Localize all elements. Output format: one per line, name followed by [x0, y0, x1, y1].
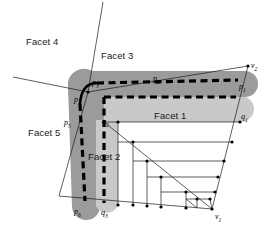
vertex-dot	[230, 140, 233, 143]
point-label-p3: p3	[92, 79, 99, 89]
point-sub: 2	[157, 79, 160, 85]
point-label-q3: q3	[101, 209, 108, 219]
vertex-dot-q3	[116, 203, 119, 206]
point-label-q2: q2	[102, 118, 109, 128]
vertex-dot	[216, 175, 219, 178]
point-sub: 1	[243, 87, 246, 93]
point-label-q1: q1	[241, 113, 248, 123]
facet-label-1: Facet 1	[154, 110, 186, 121]
point-label-v1: v1	[215, 213, 221, 223]
facet-label-5: Facet 5	[28, 127, 60, 138]
vertex-dot	[195, 197, 198, 200]
vertex-dot	[208, 197, 211, 200]
vertex-dot	[116, 120, 119, 123]
point-label-p2: p2	[153, 75, 160, 85]
point-sub: 2	[255, 66, 258, 72]
vertex-dot	[159, 175, 162, 178]
vertex-dot-v2	[246, 64, 249, 67]
vertex-dot	[159, 205, 162, 208]
vertex-dot	[222, 159, 225, 162]
facet-label-3: Facet 3	[101, 50, 133, 61]
vertex-dot	[145, 159, 148, 162]
facet-label-2: Facet 2	[88, 151, 120, 162]
point-sub: 2	[106, 122, 109, 128]
vertex-dot	[184, 206, 187, 209]
vertex-dot	[184, 190, 187, 193]
point-sub: 3	[105, 213, 108, 219]
point-sub: 6	[78, 212, 81, 218]
point-label-p5: p5	[64, 119, 71, 129]
point-label-p6: p6	[74, 208, 81, 218]
vertex-dot	[213, 190, 216, 193]
point-sub: 4	[78, 100, 81, 106]
facet-label-4: Facet 4	[26, 36, 58, 47]
point-label-v2: v2	[251, 62, 257, 72]
point-label-p4: p4	[74, 96, 81, 106]
diagram-svg	[0, 0, 272, 229]
figure-canvas: Facet 4 Facet 3 Facet 1 Facet 5 Facet 2 …	[0, 0, 272, 229]
vertex-dot-v1	[210, 207, 213, 210]
point-sub: 1	[245, 117, 248, 123]
vertex-dot	[131, 140, 134, 143]
point-sub: 1	[219, 217, 222, 223]
point-sub: 3	[96, 83, 99, 89]
vertex-dot	[145, 204, 148, 207]
vertex-dot-elbow	[86, 90, 89, 93]
vertex-dot	[131, 203, 134, 206]
point-sub: 5	[68, 123, 71, 129]
triangulation-fan	[104, 122, 240, 209]
point-label-p1: p1	[239, 83, 246, 93]
